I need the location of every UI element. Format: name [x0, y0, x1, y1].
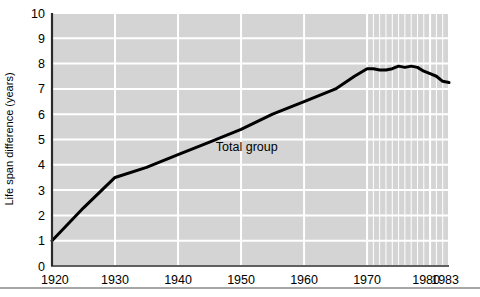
- life-span-difference-line-chart: 012345678910 192019301940195019601970198…: [0, 0, 480, 297]
- y-tick-label-3: 3: [38, 184, 45, 198]
- x-tick-label-1983: 1983: [431, 273, 459, 287]
- y-tick-label-5: 5: [38, 133, 45, 147]
- y-tick-label-8: 8: [38, 57, 45, 71]
- x-tick-label-1950: 1950: [227, 273, 255, 287]
- y-tick-label-1: 1: [38, 234, 45, 248]
- y-axis-title: Life span difference (years): [3, 72, 15, 205]
- series-annotation-total-group: Total group: [216, 140, 278, 154]
- y-tick-label-6: 6: [38, 108, 45, 122]
- y-tick-label-0: 0: [38, 260, 45, 274]
- chart-figure: 012345678910 192019301940195019601970198…: [0, 0, 480, 297]
- x-tick-label-1920: 1920: [41, 273, 69, 287]
- x-tick-label-1930: 1930: [101, 273, 129, 287]
- x-tick-label-1940: 1940: [164, 273, 192, 287]
- y-tick-label-9: 9: [38, 32, 45, 46]
- y-tick-label-2: 2: [38, 209, 45, 223]
- x-tick-label-1970: 1970: [353, 273, 381, 287]
- y-tick-label-10: 10: [31, 7, 45, 21]
- y-tick-label-7: 7: [38, 82, 45, 96]
- x-tick-label-1960: 1960: [290, 273, 318, 287]
- y-tick-label-4: 4: [38, 158, 45, 172]
